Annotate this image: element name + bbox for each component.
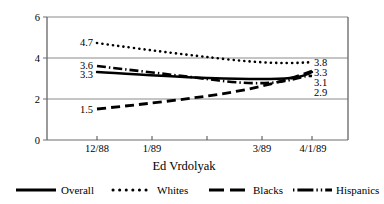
y-axis-label-6: 6 <box>35 12 40 23</box>
y-axis-label-4: 4 <box>35 53 41 64</box>
value-label-blacks-start: 1.5 <box>80 104 93 115</box>
value-label-whites-start: 4.7 <box>80 37 93 48</box>
legend-item-overall[interactable]: Overall <box>16 184 94 196</box>
chart-container: 6 4 2 0 4.7 3.6 3.3 1.5 3.8 3.3 3.1 2.9 … <box>0 0 384 204</box>
chart-legend: Overall Whites Blacks Hispanics <box>16 184 379 196</box>
legend-item-whites[interactable]: Whites <box>113 184 188 196</box>
y-axis-label-2: 2 <box>35 94 40 105</box>
legend-item-blacks[interactable]: Blacks <box>209 184 283 196</box>
y-axis-label-0: 0 <box>35 135 40 146</box>
x-axis-label-2: 1/89 <box>143 143 162 154</box>
line-chart: 6 4 2 0 4.7 3.6 3.3 1.5 3.8 3.3 3.1 2.9 … <box>0 0 384 204</box>
legend-label-overall: Overall <box>61 184 94 196</box>
x-axis-title: Ed Vrdolyak <box>152 159 216 173</box>
legend-label-hispanics: Hispanics <box>336 184 379 196</box>
x-axis-label-4: 4/1/89 <box>300 143 327 154</box>
value-label-blacks-end: 2.9 <box>314 87 327 98</box>
legend-label-blacks: Blacks <box>253 184 283 196</box>
x-axis-label-3: 3/89 <box>253 143 272 154</box>
legend-item-hispanics[interactable]: Hispanics <box>293 184 379 196</box>
value-label-overall-start: 3.3 <box>80 69 93 80</box>
x-axis-label-1: 12/88 <box>85 143 109 154</box>
legend-label-whites: Whites <box>157 184 188 196</box>
